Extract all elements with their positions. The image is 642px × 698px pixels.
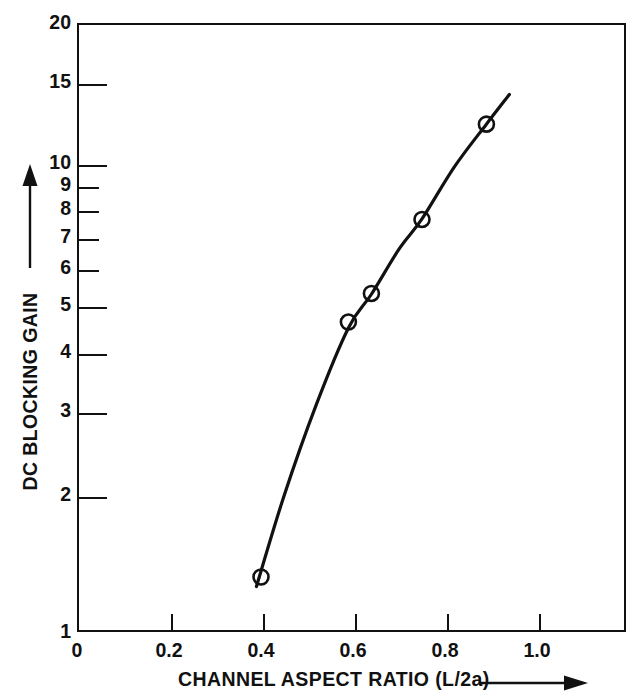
y-tick-3	[79, 413, 107, 415]
right-arrow-icon	[478, 672, 590, 694]
y-tick-6	[79, 270, 99, 272]
y-tick-label-9: 9	[25, 175, 71, 195]
y-tick-2	[79, 497, 107, 499]
y-tick-label-8: 8	[25, 199, 71, 219]
y-tick-label-15: 15	[25, 72, 71, 92]
y-tick-label-7: 7	[25, 227, 71, 247]
x-tick-label-0: 0	[47, 641, 107, 661]
y-tick-label-2: 2	[25, 485, 71, 505]
y-tick-label-1: 1	[25, 622, 71, 642]
x-axis-title: CHANNEL ASPECT RATIO (L/2a)	[178, 668, 490, 691]
y-tick-label-6: 6	[25, 258, 71, 278]
x-tick-0.2	[171, 614, 173, 630]
y-tick-label-5: 5	[25, 295, 71, 315]
x-tick-0.6	[355, 614, 357, 630]
y-tick-9	[79, 187, 99, 189]
x-tick-label-0.4: 0.4	[231, 641, 291, 661]
y-tick-label-10: 10	[25, 153, 71, 173]
y-tick-label-4: 4	[25, 342, 71, 362]
x-tick-label-1.0: 1.0	[507, 641, 567, 661]
x-tick-0.8	[447, 614, 449, 630]
x-tick-label-0.2: 0.2	[139, 641, 199, 661]
y-tick-8	[79, 211, 99, 213]
x-tick-0.4	[263, 614, 265, 630]
y-tick-5	[79, 307, 107, 309]
x-tick-1.0	[539, 614, 541, 630]
y-tick-label-3: 3	[25, 401, 71, 421]
y-tick-10	[79, 165, 107, 167]
plot-area	[77, 23, 626, 632]
y-tick-label-20: 20	[25, 13, 71, 33]
x-tick-label-0.6: 0.6	[323, 641, 383, 661]
y-tick-4	[79, 354, 107, 356]
y-tick-7	[79, 239, 99, 241]
chart-figure: DC BLOCKING GAIN 20 15 10 9 8 7 6 5 4 3 …	[0, 0, 642, 698]
x-tick-label-0.8: 0.8	[415, 641, 475, 661]
x-axis-title-group: CHANNEL ASPECT RATIO (L/2a)	[0, 668, 642, 698]
y-tick-15	[79, 84, 107, 86]
